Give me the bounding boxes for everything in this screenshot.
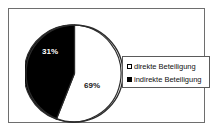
legend-swatch-black-icon <box>127 77 132 82</box>
pie-chart-figure: 31% 69% direkte Beteiligung indirekte Be… <box>0 0 214 133</box>
legend-swatch-white-icon <box>127 64 132 69</box>
pie-svg <box>25 24 124 123</box>
chart-legend: direkte Beteiligung indirekte Beteiligun… <box>122 56 210 88</box>
figure-frame: 31% 69% direkte Beteiligung indirekte Be… <box>8 8 205 123</box>
legend-item-direkte-beteiligung[interactable]: direkte Beteiligung <box>127 60 206 73</box>
legend-label-indirekte-beteiligung: indirekte Beteiligung <box>134 76 202 84</box>
legend-item-indirekte-beteiligung[interactable]: indirekte Beteiligung <box>127 73 206 86</box>
legend-label-direkte-beteiligung: direkte Beteiligung <box>134 63 196 71</box>
pie-label-indirekte-beteiligung: 31% <box>42 48 58 56</box>
pie-chart-graphic <box>25 24 124 123</box>
pie-label-direkte-beteiligung: 69% <box>84 82 100 90</box>
